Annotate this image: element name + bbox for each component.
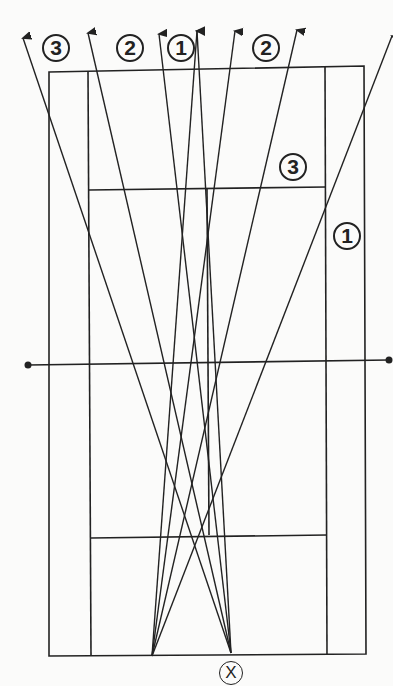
shot-1-right-from-x (197, 31, 231, 653)
shot-label-2-top-right: 2 (252, 34, 280, 62)
left-singles-line (88, 71, 91, 655)
shot-3-from-left (152, 36, 392, 656)
shot-label-1-right: 1 (333, 222, 361, 250)
near-short-service-line (91, 535, 327, 538)
shot-label-3-top: 3 (42, 34, 70, 62)
shot-2b-from-left (152, 30, 297, 656)
shot-2a-from-left (152, 31, 235, 656)
badminton-court-diagram: 3 2 1 2 3 1 X (0, 0, 393, 686)
court-lines (0, 0, 393, 686)
shot-1-left-from-x (159, 34, 231, 653)
player-position-marker: X (219, 661, 243, 685)
shot-label-3-right: 3 (279, 153, 307, 181)
shot-label-2-top-left: 2 (116, 34, 144, 62)
shot-label-1-top: 1 (167, 34, 195, 62)
shot-1-from-left (152, 31, 197, 656)
shot-3-left-from-x (23, 38, 231, 653)
net-post-right (386, 357, 393, 364)
net-post-left (25, 362, 32, 369)
